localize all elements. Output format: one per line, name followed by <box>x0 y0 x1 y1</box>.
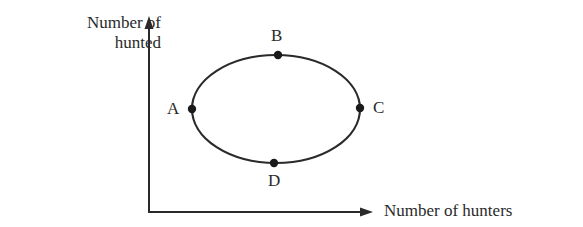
x-axis <box>148 208 373 217</box>
y-axis-label-line1: Number of <box>87 13 161 33</box>
y-axis-label: Number of hunted <box>87 13 161 53</box>
point-a-label: A <box>167 99 179 119</box>
x-axis-arrow-icon <box>360 208 373 217</box>
point-b-label: B <box>271 26 282 46</box>
cycle-ellipse <box>192 55 360 163</box>
point-c-label: C <box>373 98 384 118</box>
point-a-dot <box>188 105 196 113</box>
y-axis-label-line2: hunted <box>87 33 161 53</box>
point-d-label: D <box>268 171 280 191</box>
x-axis-label: Number of hunters <box>384 201 512 221</box>
point-b-dot <box>274 51 282 59</box>
point-c-dot <box>356 104 364 112</box>
point-d-dot <box>270 159 278 167</box>
